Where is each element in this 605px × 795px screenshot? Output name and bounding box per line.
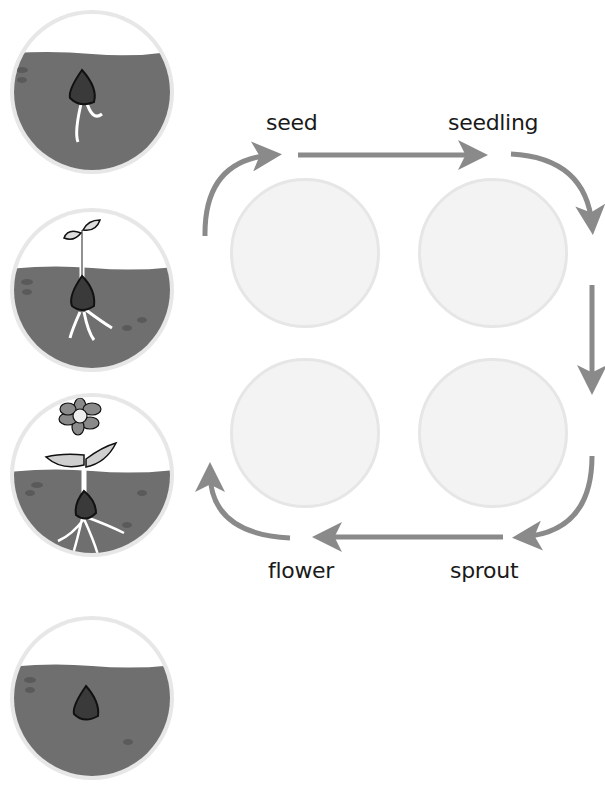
picture-card-seed-roots[interactable] (2, 2, 182, 182)
picture-card-flower[interactable] (2, 385, 182, 565)
picture-card-seed-buried[interactable] (2, 608, 182, 788)
seedling-illustration (2, 200, 182, 380)
drop-slot-seed[interactable] (230, 178, 380, 328)
label-flower: flower (268, 558, 334, 583)
drop-slot-sprout[interactable] (418, 358, 568, 508)
seed-buried-illustration (2, 608, 182, 788)
flower-illustration (2, 385, 182, 565)
drop-slot-seedling[interactable] (418, 178, 568, 328)
drop-slot-flower[interactable] (230, 358, 380, 508)
label-sprout: sprout (450, 558, 518, 583)
picture-card-seedling[interactable] (2, 200, 182, 380)
label-seed: seed (266, 110, 317, 135)
label-seedling: seedling (448, 110, 538, 135)
seed-roots-illustration (2, 2, 182, 182)
